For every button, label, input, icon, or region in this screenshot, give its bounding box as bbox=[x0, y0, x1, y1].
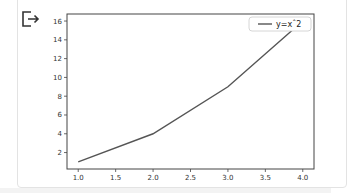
legend-label: y=xˆ2 bbox=[276, 19, 301, 29]
y-tick-label: 8 bbox=[58, 93, 62, 101]
y-tick-label: 4 bbox=[58, 130, 63, 138]
x-tick-label: 2.0 bbox=[148, 174, 159, 182]
x-tick-label: 1.0 bbox=[73, 174, 84, 182]
y-tick-label: 2 bbox=[58, 149, 62, 157]
y-tick-label: 12 bbox=[53, 55, 62, 63]
x-tick-label: 4.0 bbox=[297, 174, 308, 182]
x-tick-label: 2.5 bbox=[185, 174, 196, 182]
plot-area: 1.01.52.02.53.03.54.0246810121416y=xˆ2 bbox=[53, 14, 314, 182]
x-tick-label: 1.5 bbox=[110, 174, 121, 182]
axes-frame bbox=[67, 14, 314, 169]
y-tick-label: 6 bbox=[58, 111, 63, 119]
y-tick-label: 14 bbox=[53, 36, 62, 44]
y-tick-label: 10 bbox=[53, 74, 62, 82]
x-tick-label: 3.5 bbox=[260, 174, 271, 182]
x-tick-label: 3.0 bbox=[222, 174, 233, 182]
y-tick-label: 16 bbox=[53, 18, 62, 26]
